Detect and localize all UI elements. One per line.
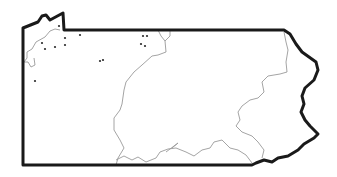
river-line <box>116 140 252 163</box>
location-dot <box>34 80 36 82</box>
location-dot <box>144 45 146 47</box>
location-dot <box>99 60 101 62</box>
river-line <box>114 41 166 165</box>
river-line <box>158 30 170 41</box>
location-dot <box>58 25 60 27</box>
location-dot <box>44 48 46 50</box>
location-dot <box>146 35 148 37</box>
location-dot <box>140 43 142 45</box>
river-line <box>166 143 178 152</box>
location-dot <box>41 42 43 44</box>
location-dot <box>142 35 144 37</box>
river-line <box>236 32 288 158</box>
location-dot <box>64 44 66 46</box>
location-points <box>34 25 148 82</box>
location-dot <box>64 37 66 39</box>
location-dot <box>54 46 56 48</box>
location-dot <box>79 34 81 36</box>
pennsylvania-map <box>0 0 337 177</box>
location-dot <box>102 59 104 61</box>
river-line <box>24 29 60 62</box>
river-lines <box>24 29 288 165</box>
state-border <box>23 13 318 165</box>
